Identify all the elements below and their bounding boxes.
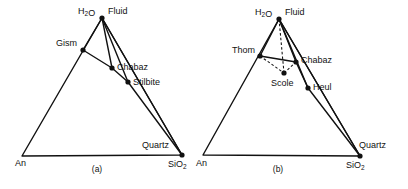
phase-label-b-chabaz: Chabaz xyxy=(301,55,333,65)
vertex-dot-b-apex xyxy=(276,16,281,21)
figure-canvas: H2OAnSiO2FluidGismChabazStilbiteQuartz(a… xyxy=(0,0,408,189)
tieline-a-4 xyxy=(83,50,112,68)
phase-label-a-chabaz: Chabaz xyxy=(117,62,149,72)
phase-dot-a-gism xyxy=(80,47,85,52)
phase-dot-a-chabaz xyxy=(109,65,114,70)
phase-dot-b-chabaz xyxy=(293,59,298,64)
phase-label-a-quartz: Quartz xyxy=(142,140,170,150)
vertex-label-b-left: An xyxy=(196,158,207,168)
ternary-panel-a: H2OAnSiO2FluidGismChabazStilbiteQuartz(a… xyxy=(15,6,187,174)
phase-dot-b-heul xyxy=(305,85,310,90)
triangle-outline-a xyxy=(22,18,182,156)
vertex-label-b-apex: H2O xyxy=(255,7,272,19)
vertex-label-a-apex: H2O xyxy=(78,6,95,18)
phase-dot-b-thom xyxy=(257,53,262,58)
vertex-label-a-left: An xyxy=(15,158,26,168)
phase-label-a-stilbite: Stilbite xyxy=(133,77,160,87)
tieline-a-2 xyxy=(102,18,128,82)
tieline-b-9 xyxy=(308,88,360,156)
vertex-dot-b-right xyxy=(357,153,362,158)
phase-label-b-thom: Thom xyxy=(232,45,255,55)
phase-label-b-scole: Scole xyxy=(271,78,294,88)
phase-label-b-fluid: Fluid xyxy=(285,7,305,17)
phase-label-a-gism: Gism xyxy=(56,38,77,48)
phase-label-b-quartz: Quartz xyxy=(359,140,387,150)
tieline-b-5 xyxy=(260,56,296,62)
vertex-dot-a-right xyxy=(179,152,184,157)
panel-caption-a: (a) xyxy=(92,164,103,174)
panel-caption-b: (b) xyxy=(273,164,284,174)
vertex-label-a-right: SiO2 xyxy=(168,159,187,170)
tieline-b-0 xyxy=(260,19,279,56)
vertex-dot-a-apex xyxy=(99,15,104,20)
vertex-label-b-right: SiO2 xyxy=(346,160,365,171)
phase-label-a-fluid: Fluid xyxy=(108,6,128,16)
tieline-a-0 xyxy=(83,18,102,50)
phase-label-b-heul: Heul xyxy=(313,82,332,92)
ternary-diagram-svg: H2OAnSiO2FluidGismChabazStilbiteQuartz(a… xyxy=(0,0,408,189)
ternary-panel-b: H2OAnSiO2FluidThomChabazScoleHeulQuartz(… xyxy=(196,7,387,174)
phase-dot-b-scole xyxy=(281,70,286,75)
phase-dot-a-stilbite xyxy=(125,79,130,84)
